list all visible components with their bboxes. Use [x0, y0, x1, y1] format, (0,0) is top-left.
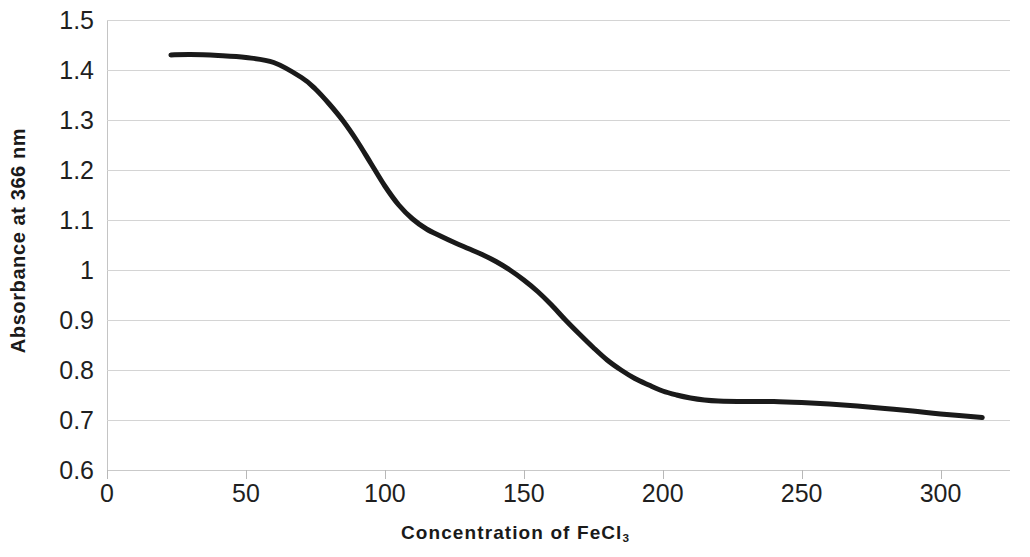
y-tick-label: 1.2 [59, 156, 94, 185]
x-tick-label: 0 [100, 479, 114, 508]
x-tick-mark [385, 470, 386, 479]
x-tick-mark [802, 470, 803, 479]
y-axis-title-text: Absorbance at 366 nm [8, 127, 31, 352]
data-curve [107, 20, 1010, 470]
y-tick-label: 0.9 [59, 306, 94, 335]
y-tick-label: 1.1 [59, 206, 94, 235]
x-tick-label: 100 [364, 479, 406, 508]
x-axis-title-text: Concentration of FeCl [401, 522, 623, 543]
x-tick-label: 300 [920, 479, 962, 508]
y-axis-title: Absorbance at 366 nm [0, 0, 38, 480]
absorbance-curve-path [171, 54, 982, 417]
absorbance-line-chart: Absorbance at 366 nm 0.60.70.80.911.11.2… [0, 0, 1030, 557]
y-tick-label: 1.4 [59, 56, 94, 85]
x-tick-label: 250 [781, 479, 823, 508]
x-tick-mark [524, 470, 525, 479]
y-tick-label: 1 [80, 256, 94, 285]
y-axis-tick-labels: 0.60.70.80.911.11.21.31.41.5 [38, 0, 100, 490]
x-axis-title-subscript: 3 [623, 531, 630, 544]
x-axis-tick-labels: 050100150200250300 [0, 479, 1030, 515]
x-tick-label: 200 [642, 479, 684, 508]
y-tick-label: 0.7 [59, 406, 94, 435]
x-tick-label: 50 [232, 479, 260, 508]
x-tick-mark [107, 470, 108, 479]
x-tick-mark [941, 470, 942, 479]
x-tick-mark [663, 470, 664, 479]
y-tick-label: 1.3 [59, 106, 94, 135]
plot-area [107, 20, 1010, 470]
x-tick-mark [246, 470, 247, 479]
y-tick-label: 0.8 [59, 356, 94, 385]
x-axis-tick-marks [107, 470, 1010, 479]
x-tick-label: 150 [503, 479, 545, 508]
y-tick-label: 1.5 [59, 6, 94, 35]
x-axis-title: Concentration of FeCl3 [0, 522, 1030, 544]
